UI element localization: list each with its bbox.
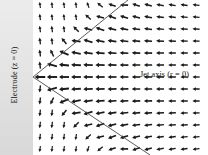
electric-field-figure: Electrode (z = 0) Jet axis (r = 0) [0,0,208,155]
jet-axis-label: Jet axis (r = 0) [140,71,189,79]
electrode-axis-label: Electrode (z = 0) [11,36,19,114]
